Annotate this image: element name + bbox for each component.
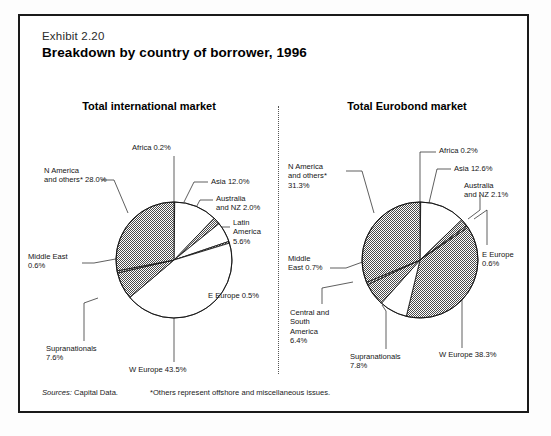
footer: Sources: Capital Data. *Others represent…	[42, 388, 512, 399]
exhibit-page: Exhibit 2.20 Breakdown by country of bor…	[0, 0, 551, 436]
leader-line-asia	[184, 182, 208, 202]
footnote-text: *Others represent offshore and miscellan…	[150, 388, 330, 397]
pie-slice-n-america-and-others	[116, 202, 174, 271]
source-value: Capital Data.	[72, 388, 118, 397]
leader-line-asia	[429, 169, 451, 203]
leader-line-n-america	[346, 171, 374, 213]
leader-line-supranationals	[84, 298, 98, 341]
page-title: Breakdown by country of borrower, 1996	[42, 45, 307, 60]
exhibit-number: Exhibit 2.20	[42, 30, 105, 42]
leader-line-africa	[420, 152, 436, 202]
pie-label-middle-east: Middle East 0.6%	[28, 252, 68, 271]
pie-label-australia-nz: Australia and NZ 2.1%	[464, 181, 508, 200]
pie-label-e-europe: E Europe 0.6%	[482, 250, 514, 269]
leader-line-supranationals	[382, 305, 386, 349]
leader-line-e-europe	[474, 210, 487, 245]
pie-label-central-south: Central and South America 6.4%	[290, 308, 329, 346]
leader-line-middle-east	[82, 258, 121, 263]
pie-label-australia-nz: Australia and NZ 2.0%	[216, 194, 260, 213]
panel-divider	[278, 106, 279, 374]
chart-panel-eurobond: Total Eurobond market Africa 0.2%Asia 12…	[282, 100, 532, 385]
pie-label-middle-east: Middle East 0.7%	[288, 254, 323, 273]
pie-label-latin-america: Latin America 5.6%	[233, 218, 261, 246]
pie-label-africa: Africa 0.2%	[132, 143, 171, 152]
exhibit-frame: Exhibit 2.20 Breakdown by country of bor…	[18, 14, 529, 413]
pie-label-africa: Africa 0.2%	[439, 146, 478, 155]
pie-label-supranationals: Supranationals 7.8%	[350, 352, 401, 371]
source-label: Sources:	[42, 388, 72, 397]
pie-label-asia: Asia 12.0%	[211, 177, 249, 186]
pie-label-n-america: N America and others* 31.3%	[288, 162, 327, 190]
leader-line-n-america	[101, 180, 128, 213]
pie-label-w-europe: W Europe 38.3%	[439, 350, 496, 359]
chart-panel-international: Total international market Africa 0.2%As…	[24, 100, 274, 385]
pie-label-w-europe: W Europe 43.5%	[129, 365, 186, 374]
pie-label-asia: Asia 12.6%	[454, 164, 492, 173]
pie-label-supranationals: Supranationals 7.6%	[46, 344, 97, 363]
leader-line-central-south	[322, 282, 353, 304]
pie-label-n-america: N America and others* 28.0%	[44, 166, 106, 185]
pie-label-e-europe: E Europe 0.5%	[208, 291, 259, 300]
